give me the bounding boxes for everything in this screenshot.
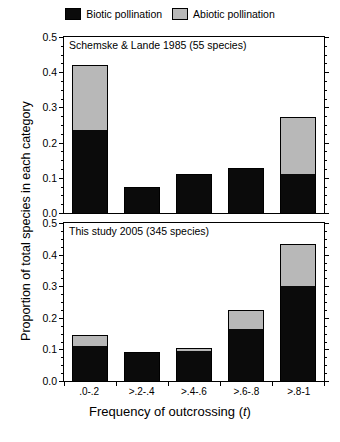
y-tick-major [59, 286, 64, 287]
y-tick-minor [61, 160, 64, 161]
y-tick-minor [61, 326, 64, 327]
y-tick-right-minor [324, 46, 327, 47]
bar-24 [124, 352, 160, 381]
y-tick-minor [61, 187, 64, 188]
panel-this-study: This study 2005 (345 species) 0.00.10.20… [63, 222, 325, 382]
y-tick-minor [61, 90, 64, 91]
y-tick-minor [61, 55, 64, 56]
y-tick-minor [61, 134, 64, 135]
bar-segment-biotic [72, 130, 108, 213]
y-tick-minor [61, 357, 64, 358]
y-tick-label: 0.5 [42, 217, 57, 229]
y-tick-right-minor [324, 151, 327, 152]
y-tick-right-minor [324, 302, 327, 303]
y-tick-major [59, 178, 64, 179]
bar-81 [280, 244, 316, 381]
y-tick-right-minor [324, 204, 327, 205]
y-tick-right-major [324, 213, 329, 214]
y-tick-minor [61, 125, 64, 126]
y-tick-minor [61, 63, 64, 64]
gray-square-swatch-icon [172, 8, 188, 20]
bar-segment-abiotic [228, 310, 264, 329]
y-tick-major [59, 213, 64, 214]
y-tick-minor [61, 116, 64, 117]
y-tick-right-major [324, 349, 329, 350]
y-tick-minor [61, 342, 64, 343]
bar-segment-abiotic [280, 117, 316, 174]
y-tick-minor [61, 270, 64, 271]
bar-segment-biotic [228, 168, 264, 213]
bar-02 [72, 65, 108, 213]
legend-item-abiotic: Abiotic pollination [172, 8, 275, 20]
y-tick-right-minor [324, 195, 327, 196]
y-tick-right-major [324, 178, 329, 179]
y-tick-label: 0.2 [42, 312, 57, 324]
y-tick-label: 0.3 [42, 101, 57, 113]
y-tick-minor [61, 231, 64, 232]
y-tick-minor [61, 46, 64, 47]
bar-segment-biotic [124, 353, 160, 381]
bar-segment-biotic [280, 174, 316, 213]
y-tick-right-minor [324, 263, 327, 264]
y-tick-right-minor [324, 342, 327, 343]
y-tick-right-major [324, 318, 329, 319]
plot-area-top [64, 37, 324, 213]
legend-label-abiotic: Abiotic pollination [193, 8, 275, 20]
y-tick-right-minor [324, 55, 327, 56]
y-tick-right-major [324, 286, 329, 287]
y-tick-major [59, 349, 64, 350]
y-tick-minor [61, 294, 64, 295]
bar-46 [176, 174, 212, 213]
bar-segment-biotic [228, 329, 264, 381]
bar-segment-biotic [124, 187, 160, 213]
y-tick-right-minor [324, 169, 327, 170]
y-tick-right-minor [324, 326, 327, 327]
y-tick-right-minor [324, 334, 327, 335]
x-tick-label-3: >.6-.8 [223, 386, 269, 397]
y-tick-right-minor [324, 278, 327, 279]
bar-segment-biotic [176, 351, 212, 381]
bar-segment-biotic [176, 174, 212, 213]
black-square-swatch-icon [65, 8, 81, 20]
x-tick-label-1: >.2-.4 [119, 386, 165, 397]
y-tick-major [59, 318, 64, 319]
y-tick-label: 0.1 [42, 343, 57, 355]
y-tick-right-minor [324, 365, 327, 366]
y-tick-right-major [324, 37, 329, 38]
bar-02 [72, 335, 108, 381]
y-tick-major [59, 223, 64, 224]
y-tick-label: 0.5 [42, 31, 57, 43]
plot-area-bottom [64, 223, 324, 381]
bar-46 [176, 348, 212, 381]
x-axis-title-suffix: ) [247, 404, 251, 419]
y-tick-label: 0.1 [42, 172, 57, 184]
x-axis-tick-labels: .0-.2>.2-.4>.4-.6>.6-.8>.8-1 [63, 386, 325, 397]
chart-legend: Biotic pollination Abiotic pollination [0, 8, 340, 20]
y-tick-minor [61, 99, 64, 100]
bar-segment-abiotic [72, 65, 108, 130]
y-tick-minor [61, 239, 64, 240]
y-tick-major [59, 255, 64, 256]
panel-schemske-lande: Schemske & Lande 1985 (55 species) 0.00.… [63, 36, 325, 214]
y-tick-right-minor [324, 373, 327, 374]
y-tick-minor [61, 151, 64, 152]
y-tick-minor [61, 334, 64, 335]
y-tick-right-minor [324, 357, 327, 358]
legend-label-biotic: Biotic pollination [86, 8, 162, 20]
y-tick-minor [61, 310, 64, 311]
bar-81 [280, 117, 316, 213]
x-axis-title: Frequency of outcrossing (t) [0, 404, 340, 419]
y-tick-right-minor [324, 239, 327, 240]
y-tick-right-minor [324, 270, 327, 271]
y-tick-minor [61, 263, 64, 264]
y-tick-right-major [324, 72, 329, 73]
y-tick-minor [61, 373, 64, 374]
y-tick-label: 0.0 [42, 375, 57, 387]
legend-item-biotic: Biotic pollination [65, 8, 162, 20]
y-tick-right-major [324, 107, 329, 108]
y-tick-minor [61, 302, 64, 303]
y-tick-right-minor [324, 81, 327, 82]
y-tick-right-minor [324, 294, 327, 295]
figure: Biotic pollination Abiotic pollination P… [0, 0, 340, 442]
y-tick-right-minor [324, 90, 327, 91]
